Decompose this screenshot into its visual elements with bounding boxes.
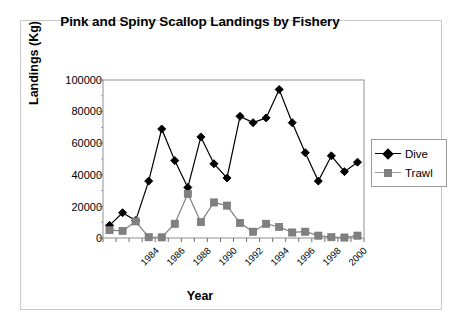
- data-point-trawl: [145, 234, 152, 241]
- data-point-trawl: [210, 199, 217, 206]
- legend-key-square-icon: [375, 166, 401, 180]
- data-point-dive: [106, 221, 114, 229]
- data-point-dive: [171, 157, 179, 165]
- data-point-trawl: [184, 190, 191, 197]
- data-point-dive: [223, 174, 231, 182]
- data-point-dive: [288, 119, 296, 127]
- data-point-trawl: [106, 227, 113, 234]
- data-point-dive: [249, 119, 257, 127]
- x-tick-label: 1996: [294, 245, 317, 268]
- data-point-trawl: [119, 227, 126, 234]
- plot-border: [103, 80, 364, 238]
- legend-label: Dive: [405, 148, 428, 160]
- chart-figure: Pink and Spiny Scallop Landings by Fishe…: [0, 0, 465, 331]
- data-point-dive: [236, 112, 244, 120]
- data-point-trawl: [223, 202, 230, 209]
- series-line-trawl: [110, 194, 358, 238]
- legend-key-diamond-icon: [375, 147, 401, 161]
- x-tick-label: 1998: [320, 245, 343, 268]
- y-tick-label: 100000: [65, 74, 102, 86]
- y-axis-ticks: 100000 80000 60000 40000 20000 0: [40, 0, 102, 331]
- y-axis-label: Landings (Kg): [27, 21, 41, 105]
- legend-label: Trawl: [405, 167, 433, 179]
- x-tick-label: 2000: [347, 245, 370, 268]
- chart-legend: Dive Trawl: [371, 139, 447, 187]
- data-point-trawl: [197, 219, 204, 226]
- data-point-trawl: [236, 219, 243, 226]
- data-point-dive: [145, 177, 153, 185]
- x-axis-label: Year: [110, 289, 290, 303]
- y-tick-label: 60000: [71, 137, 102, 149]
- data-point-dive: [327, 152, 335, 160]
- y-tick-label: 80000: [71, 105, 102, 117]
- data-point-trawl: [276, 223, 283, 230]
- y-tick-label: 0: [96, 232, 102, 244]
- data-point-trawl: [354, 232, 361, 239]
- data-point-dive: [184, 183, 192, 191]
- legend-item-dive: Dive: [372, 144, 446, 163]
- data-point-trawl: [263, 220, 270, 227]
- data-point-dive: [275, 85, 283, 93]
- data-point-trawl: [132, 218, 139, 225]
- data-point-dive: [353, 158, 361, 166]
- x-tick-label: 1992: [242, 245, 265, 268]
- x-tick-label: 1984: [138, 245, 161, 268]
- data-point-trawl: [341, 234, 348, 241]
- y-tick-label: 20000: [71, 201, 102, 213]
- x-tick-label: 1986: [164, 245, 187, 268]
- data-point-trawl: [249, 228, 256, 235]
- x-tick-label: 1988: [190, 245, 213, 268]
- data-point-dive: [301, 149, 309, 157]
- data-point-dive: [132, 217, 140, 225]
- data-point-dive: [119, 209, 127, 217]
- data-point-dive: [262, 114, 270, 122]
- x-tick-label: 1994: [268, 245, 291, 268]
- data-point-trawl: [302, 228, 309, 235]
- y-tick-label: 40000: [71, 169, 102, 181]
- data-point-dive: [210, 160, 218, 168]
- data-point-dive: [314, 177, 322, 185]
- data-point-trawl: [289, 229, 296, 236]
- data-point-trawl: [328, 234, 335, 241]
- data-point-dive: [158, 125, 166, 133]
- series-line-dive: [110, 89, 358, 225]
- x-tick-label: 1990: [216, 245, 239, 268]
- data-point-trawl: [171, 220, 178, 227]
- data-point-dive: [197, 133, 205, 141]
- data-point-trawl: [158, 234, 165, 241]
- data-point-dive: [340, 168, 348, 176]
- legend-item-trawl: Trawl: [372, 163, 446, 182]
- data-point-trawl: [315, 232, 322, 239]
